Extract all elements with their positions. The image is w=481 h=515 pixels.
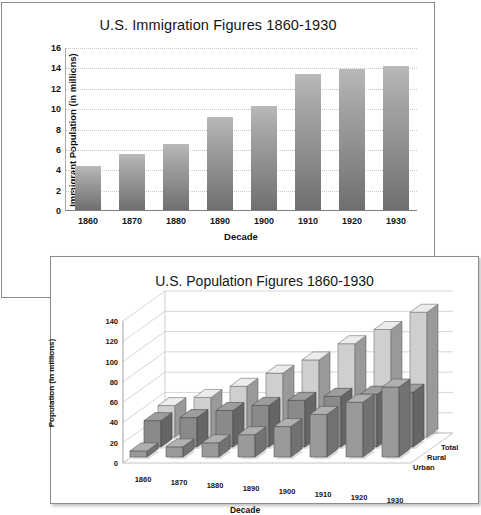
- bar-side-face: [427, 304, 438, 437]
- bar-front-face: [238, 435, 255, 457]
- bar-column: 1900: [242, 48, 286, 210]
- x-axis-tick: 1930: [374, 216, 418, 226]
- bar-front-face: [382, 387, 399, 457]
- gridline-side: [123, 352, 165, 382]
- bar: [163, 144, 189, 210]
- x-axis-tick: 1920: [330, 216, 374, 226]
- bar-side-face: [413, 384, 424, 447]
- bar: [251, 106, 277, 210]
- chart-title-immigration: U.S. Immigration Figures 1860-1930: [2, 17, 434, 33]
- y-axis-tick: 4: [56, 165, 61, 175]
- gridline-side: [123, 311, 165, 341]
- y-axis-tick: 6: [56, 145, 61, 155]
- bar-column: 1860: [66, 48, 110, 210]
- immigration-plot-area: Immigrant Population (in millions) 02468…: [65, 48, 417, 211]
- x-axis-tick: 1910: [286, 216, 330, 226]
- bar-front-face: [166, 447, 183, 457]
- gridline-side: [123, 372, 165, 402]
- population-chart-panel: U.S. Population Figures 1860-1930 Popula…: [50, 256, 479, 504]
- y-axis-tick: 10: [51, 104, 61, 114]
- bar-column: 1890: [198, 48, 242, 210]
- bar-column: 1880: [154, 48, 198, 210]
- bar: [75, 166, 101, 210]
- x-axis-tick: 1880: [154, 216, 198, 226]
- x-axis-tick: 1870: [110, 216, 154, 226]
- y-axis-tick: 12: [51, 84, 61, 94]
- bar-column: 1930: [374, 48, 418, 210]
- immigration-chart-panel: U.S. Immigration Figures 1860-1930 Immig…: [1, 2, 435, 298]
- y-axis-tick: 0: [56, 206, 61, 216]
- gridline-side: [123, 332, 165, 362]
- x-axis-title-population: Decade: [230, 505, 260, 515]
- x-axis-tick: 1900: [242, 216, 286, 226]
- bar: [207, 117, 233, 210]
- bar: [383, 66, 409, 210]
- x-axis-tick: 1860: [66, 216, 110, 226]
- bar-front-face: [202, 443, 219, 457]
- bar: [295, 74, 321, 211]
- bar-column: 1870: [110, 48, 154, 210]
- bar-column: 1910: [286, 48, 330, 210]
- bar: [119, 154, 145, 210]
- y-axis-tick: 2: [56, 186, 61, 196]
- x-axis-tick: 1890: [198, 216, 242, 226]
- bar-side-face: [327, 406, 338, 457]
- y-axis-tick: 16: [51, 43, 61, 53]
- bar-front-face: [310, 414, 327, 457]
- y-axis-tick: 8: [56, 125, 61, 135]
- bar-front-face: [346, 402, 363, 457]
- y-axis-tick: 14: [51, 63, 61, 73]
- bar-column: 1920: [330, 48, 374, 210]
- bar-front-face: [130, 451, 147, 457]
- bar: [339, 69, 365, 210]
- gridline-side: [123, 291, 165, 321]
- population-3d-plot: [51, 257, 480, 505]
- bar-side-face: [363, 394, 374, 457]
- bar-front-face: [274, 427, 291, 457]
- x-axis-title-immigration: Decade: [65, 231, 417, 242]
- bar-side-face: [399, 379, 410, 457]
